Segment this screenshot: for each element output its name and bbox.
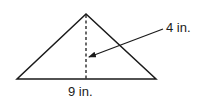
base-label: 9 in. bbox=[68, 84, 93, 99]
height-pointer-arrow bbox=[89, 29, 163, 57]
height-label: 4 in. bbox=[166, 20, 191, 35]
triangle-diagram: 4 in. 9 in. bbox=[0, 0, 208, 112]
triangle-outline bbox=[17, 14, 156, 79]
